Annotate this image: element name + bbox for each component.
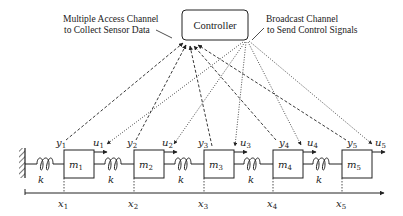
svg-text:y3: y3 (197, 137, 208, 150)
svg-text:u4: u4 (307, 137, 318, 150)
spring-label-1: k (38, 174, 44, 185)
spring-1 (25, 158, 64, 170)
sensor-arrow-5 (198, 45, 346, 140)
svg-text:u1: u1 (93, 137, 104, 150)
control-arrow-4 (248, 42, 301, 145)
svg-text:u5: u5 (375, 137, 386, 150)
svg-text:x3: x3 (198, 198, 208, 211)
position-axis: x1 x2 x3 x4 x5 (25, 178, 384, 211)
svg-text:x1: x1 (58, 198, 68, 211)
spring-label-2: k (108, 174, 114, 185)
sensor-arrow-1 (66, 43, 183, 140)
control-arrow-2 (174, 42, 245, 144)
mac-annotation-line2: to Collect Sensor Data (64, 25, 151, 35)
sensor-arrow-2 (136, 45, 186, 140)
controller-box: Controller (182, 10, 248, 40)
sensor-arrow-3 (190, 46, 212, 146)
bc-annotation-line1: Broadcast Channel (266, 14, 338, 24)
mass-1: m1 (64, 150, 94, 178)
mac-pointer-line (156, 30, 172, 38)
spring-label-5: k (316, 174, 322, 185)
svg-text:y1: y1 (55, 137, 66, 150)
controller-label: Controller (193, 20, 237, 31)
sensor-data-arrows (66, 43, 346, 146)
svg-text:u2: u2 (162, 137, 173, 150)
svg-text:y4: y4 (278, 137, 290, 150)
spring-4 (234, 158, 273, 170)
control-arrow-1 (107, 42, 243, 144)
control-arrow-5 (249, 41, 372, 144)
spring-3 (164, 158, 204, 170)
svg-text:y2: y2 (126, 137, 137, 150)
control-arrow-3 (235, 42, 246, 146)
mass-5: m5 (342, 150, 372, 178)
spring-5 (303, 158, 342, 170)
mac-annotation-line1: Multiple Access Channel (63, 14, 159, 24)
fixed-wall (19, 148, 25, 178)
svg-text:x5: x5 (336, 198, 346, 211)
sensor-arrow-4 (194, 46, 276, 140)
mass-2: m2 (134, 150, 164, 178)
svg-text:y5: y5 (346, 137, 357, 150)
spring-label-3: k (178, 174, 184, 185)
spring-2 (94, 158, 134, 170)
mass-3: m3 (204, 150, 234, 178)
svg-text:x4: x4 (267, 198, 278, 211)
svg-text:u3: u3 (240, 137, 251, 150)
mass-4: m4 (273, 150, 303, 178)
control-signal-arrows (107, 41, 372, 146)
mass-spring-network-diagram: Controller Multiple Access Channel to Co… (0, 0, 403, 216)
spring-label-4: k (248, 174, 254, 185)
bc-pointer-line (252, 28, 264, 40)
bc-annotation-line2: to Send Control Signals (267, 25, 358, 35)
svg-text:x2: x2 (128, 198, 138, 211)
